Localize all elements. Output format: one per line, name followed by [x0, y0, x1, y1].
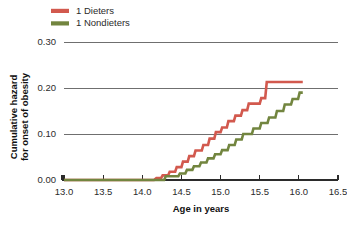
y-tick-label-0.10: 0.10: [38, 128, 57, 139]
x-tick-label-14.5: 14.5: [172, 186, 191, 197]
x-tick-label-13.0: 13.0: [55, 186, 74, 197]
legend: 1 Dieters1 Nondieters: [51, 5, 130, 29]
x-axis-title: Age in years: [173, 203, 230, 214]
y-tick-label-0.20: 0.20: [38, 82, 57, 93]
y-axis-title-line-1: Cumulative hazard: [8, 75, 19, 160]
y-axis-tick-labels: 0.000.100.200.30: [38, 36, 57, 185]
x-tick-label-15.5: 15.5: [250, 186, 269, 197]
chart-container: 0.000.100.200.3013.013.514.014.515.015.5…: [0, 0, 347, 235]
x-axis-ticks-group: 13.013.514.014.515.015.516.016.5: [55, 175, 347, 197]
series-line-nondieters: [64, 93, 303, 180]
cumulative-hazard-chart: 0.000.100.200.3013.013.514.014.515.015.5…: [0, 0, 347, 235]
legend-swatch-nondieters: [51, 21, 69, 25]
x-tick-label-15.0: 15.0: [211, 186, 230, 197]
legend-label-nondieters: 1 Nondieters: [76, 17, 130, 28]
gridlines-group: [64, 42, 338, 134]
legend-label-dieters: 1 Dieters: [76, 5, 114, 16]
legend-swatch-dieters: [51, 9, 69, 13]
x-tick-label-14.0: 14.0: [133, 186, 152, 197]
y-axis-title: Cumulative hazardfor onset of obesity: [8, 72, 30, 161]
y-tick-label-0.30: 0.30: [38, 36, 57, 47]
x-tick-label-13.5: 13.5: [94, 186, 113, 197]
x-tick-label-16.5: 16.5: [329, 186, 347, 197]
series-line-dieters: [64, 82, 303, 180]
y-axis-title-line-2: for onset of obesity: [19, 72, 30, 161]
series-group: [64, 82, 303, 180]
x-tick-label-16.0: 16.0: [290, 186, 309, 197]
y-tick-label-0.00: 0.00: [38, 174, 57, 185]
